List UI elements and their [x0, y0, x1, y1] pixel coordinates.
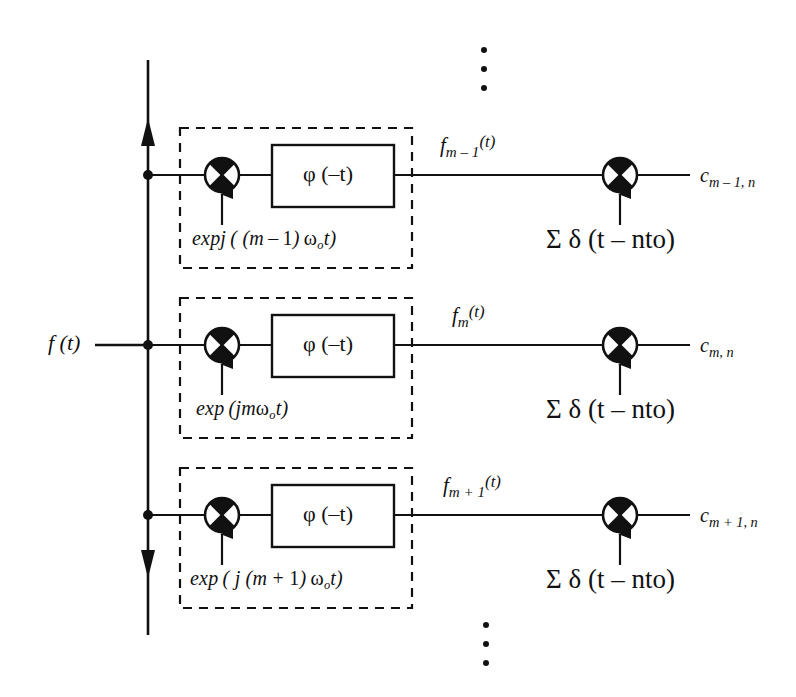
block-diagram-canvas: f (t) expj ( (m – 1) ωot) φ (–t) fm – 1(… — [0, 0, 796, 697]
output-label-m-minus-1: cm – 1, n — [700, 165, 755, 189]
modulator-label-m-minus-1: expj ( (m – 1) ωot) — [192, 228, 336, 251]
sampler-multiplier-icon — [603, 158, 637, 192]
bus-arrow-down-icon — [141, 550, 155, 578]
output-label-m: cm, n — [700, 335, 734, 359]
output-label-m-plus-1: cm + 1, n — [700, 505, 758, 529]
filter-label-m-plus-1: φ (–t) — [303, 503, 353, 525]
top-ellipsis-icon — [481, 47, 487, 91]
sampler-multiplier-icon — [603, 328, 637, 362]
modulator-multiplier-icon — [205, 328, 239, 362]
intermediate-signal-label-m-plus-1: fm + 1(t) — [443, 474, 501, 500]
intermediate-signal-label-m-minus-1: fm – 1(t) — [440, 134, 495, 160]
sampler-multiplier-icon — [603, 498, 637, 532]
sampler-label-m: Σ δ (t – nto) — [546, 396, 675, 423]
modulator-label-m-plus-1: exp ( j (m + 1) ωot) — [190, 568, 343, 591]
filter-label-m-minus-1: φ (–t) — [303, 163, 353, 185]
bus-arrow-up-icon — [141, 118, 155, 146]
diagram-vector-layer — [0, 0, 796, 697]
input-signal-label: f (t) — [48, 332, 80, 354]
modulator-multiplier-icon — [205, 498, 239, 532]
filter-label-m: φ (–t) — [303, 333, 353, 355]
modulator-multiplier-icon — [205, 158, 239, 192]
sampler-label-m-minus-1: Σ δ (t – nto) — [546, 226, 675, 253]
modulator-label-m: exp (jmωot) — [196, 398, 288, 421]
bottom-ellipsis-icon — [483, 622, 489, 666]
intermediate-signal-label-m: fm(t) — [452, 304, 485, 330]
sampler-label-m-plus-1: Σ δ (t – nto) — [546, 566, 675, 593]
